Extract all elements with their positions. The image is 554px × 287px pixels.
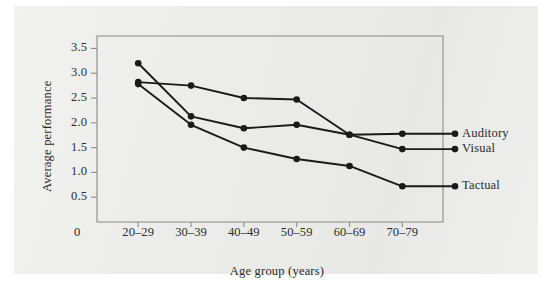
plot-frame-rect bbox=[97, 36, 443, 222]
x-tick-label: 40–49 bbox=[214, 225, 274, 240]
axis-origin-label: 0 bbox=[62, 225, 92, 240]
data-point-marker bbox=[346, 163, 353, 170]
x-axis-title: Age group (years) bbox=[127, 264, 427, 279]
y-tick-label: 1.5 bbox=[53, 140, 87, 155]
x-tick-label: 60–69 bbox=[320, 225, 380, 240]
series-label-marker bbox=[452, 146, 459, 153]
data-point-marker bbox=[135, 81, 142, 88]
y-tick-label: 2.0 bbox=[53, 115, 87, 130]
x-tick-label: 50–59 bbox=[267, 225, 327, 240]
series-line-visual bbox=[138, 63, 402, 149]
data-point-marker bbox=[188, 82, 195, 89]
x-tick-label: 30–39 bbox=[161, 225, 221, 240]
figure-container: Average performance Age group (years) 0 … bbox=[0, 0, 554, 287]
y-tick-label: 2.5 bbox=[53, 90, 87, 105]
data-point-marker bbox=[346, 131, 353, 138]
series-label-marker bbox=[452, 130, 459, 137]
y-tick-label: 1.0 bbox=[53, 164, 87, 179]
data-point-marker bbox=[241, 95, 248, 102]
series-lines bbox=[135, 60, 406, 190]
data-point-marker bbox=[293, 121, 300, 128]
x-tick-label: 20–29 bbox=[108, 225, 168, 240]
data-point-marker bbox=[135, 60, 142, 67]
series-label-auditory: Auditory bbox=[462, 126, 509, 141]
axis-ticks bbox=[91, 48, 402, 227]
data-point-marker bbox=[293, 96, 300, 103]
series-label-leaders bbox=[402, 130, 458, 189]
y-tick-label: 3.5 bbox=[53, 40, 87, 55]
plot-frame bbox=[97, 36, 443, 222]
series-label-tactual: Tactual bbox=[462, 178, 500, 193]
data-point-marker bbox=[241, 144, 248, 151]
y-tick-label: 0.5 bbox=[53, 189, 87, 204]
data-point-marker bbox=[293, 156, 300, 163]
data-point-marker bbox=[188, 113, 195, 120]
series-label-marker bbox=[452, 183, 459, 190]
data-point-marker bbox=[188, 121, 195, 128]
y-tick-label: 3.0 bbox=[53, 65, 87, 80]
series-label-visual: Visual bbox=[462, 141, 495, 156]
x-tick-label: 70–79 bbox=[372, 225, 432, 240]
data-point-marker bbox=[241, 125, 248, 132]
